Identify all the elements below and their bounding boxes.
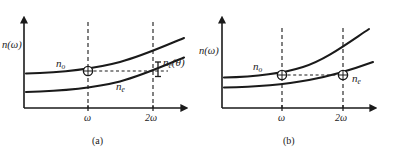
- x-tick-label-2omega: 2ω: [145, 113, 157, 123]
- curve-n-e: [26, 58, 184, 93]
- x-tick-label-omega: ω: [84, 113, 91, 123]
- marker-omega-ordinary: [83, 66, 92, 75]
- y-axis-label: n(ω): [199, 46, 219, 57]
- curve-label-n-o: no: [56, 58, 65, 69]
- marker-omega-ordinary: [277, 70, 286, 79]
- curve-label-n-o: no: [253, 61, 262, 72]
- x-tick-label-2omega: 2ω: [335, 113, 347, 123]
- panel-b: n(ω) no ne ω 2ω (b): [197, 0, 394, 154]
- annotation-label-n-e-theta: ne(θ): [163, 57, 185, 68]
- x-tick-label-omega: ω: [278, 113, 285, 123]
- panel-a-plot: [0, 0, 197, 154]
- y-axis-label: n(ω): [2, 40, 22, 51]
- curve-label-n-e: ne: [352, 73, 361, 84]
- marker-2omega-extraordinary: [338, 70, 347, 79]
- panel-b-caption: (b): [283, 135, 295, 146]
- curve-label-n-e: ne: [116, 81, 125, 92]
- panel-b-plot: [197, 0, 394, 154]
- phase-matching-figure: n(ω) no ne ne(θ) ω 2ω (a): [0, 0, 395, 154]
- panel-a: n(ω) no ne ne(θ) ω 2ω (a): [0, 0, 197, 154]
- curve-n-e: [224, 62, 373, 88]
- panel-a-caption: (a): [92, 135, 103, 146]
